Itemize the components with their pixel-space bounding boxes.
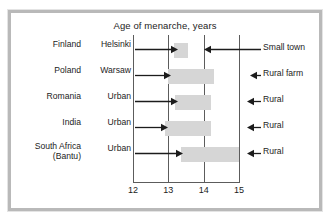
arrow-left-glyph: [250, 71, 261, 80]
arrow-left-glyph: [204, 45, 261, 54]
right-label-south-africa: Rural: [263, 146, 284, 156]
x-axis-tick-labels: 12 13 14 15: [133, 185, 239, 199]
country-label-finland: Finland: [0, 39, 81, 49]
figure-frame: Age of menarche, years Finland Helsinki: [8, 10, 322, 211]
x-axis-line: [133, 182, 239, 183]
arrow-right-glyph: [135, 45, 179, 54]
country-name: India: [62, 117, 81, 127]
setting-label-south-africa: Urban: [81, 143, 131, 153]
arrow-rural-finland: [204, 45, 261, 54]
row-india: India Urban Rural: [11, 117, 319, 143]
right-label-finland: Small town: [263, 42, 305, 52]
country-name: Poland: [54, 65, 81, 75]
arrow-rural-romania: [247, 97, 261, 106]
country-label-india: India: [0, 117, 81, 127]
row-south-africa: South Africa (Bantu) Urban Rural: [11, 143, 319, 169]
row-romania: Romania Urban Rural: [11, 91, 319, 117]
country-name: Finland: [53, 39, 81, 49]
setting-label-romania: Urban: [81, 91, 131, 101]
page-title: Age of menarche, years: [11, 20, 319, 31]
setting-label-poland: Warsaw: [81, 65, 131, 75]
arrow-left-glyph: [247, 149, 261, 158]
right-label-romania: Rural: [263, 94, 284, 104]
arrow-left-glyph: [247, 123, 261, 132]
arrow-right-glyph: [135, 97, 178, 106]
setting-label-india: Urban: [81, 117, 131, 127]
arrow-urban-romania: [135, 97, 178, 106]
arrow-rural-south-africa: [247, 149, 261, 158]
tick-label-13: 13: [163, 185, 173, 195]
arrow-urban-poland: [135, 71, 171, 80]
row-poland: Poland Warsaw Rural farm: [11, 65, 319, 91]
arrow-urban-india: [135, 123, 168, 132]
arrow-right-glyph: [135, 149, 183, 158]
country-label-romania: Romania: [0, 91, 81, 101]
country-name-sub: (Bantu): [0, 151, 81, 161]
country-label-south-africa: South Africa (Bantu): [0, 141, 81, 161]
right-label-poland: Rural farm: [263, 68, 303, 78]
arrow-left-glyph: [247, 97, 261, 106]
country-name: Romania: [47, 91, 81, 101]
right-label-india: Rural: [263, 120, 284, 130]
tick-label-12: 12: [128, 185, 138, 195]
arrow-right-glyph: [135, 123, 168, 132]
arrow-urban-finland: [135, 45, 179, 54]
figure-background: Age of menarche, years Finland Helsinki: [11, 13, 319, 208]
arrow-urban-south-africa: [135, 149, 183, 158]
arrow-rural-india: [247, 123, 261, 132]
arrow-rural-poland: [250, 71, 261, 80]
country-name: South Africa: [35, 141, 81, 151]
row-finland: Finland Helsinki Small town: [11, 39, 319, 65]
tick-label-14: 14: [199, 185, 209, 195]
tick-label-15: 15: [234, 185, 244, 195]
country-label-poland: Poland: [0, 65, 81, 75]
setting-label-finland: Helsinki: [81, 39, 131, 49]
arrow-right-glyph: [135, 71, 171, 80]
